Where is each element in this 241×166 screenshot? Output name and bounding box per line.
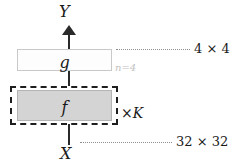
repeat-variable: K xyxy=(133,105,143,121)
size-annotation-output: 4 × 4 xyxy=(194,42,230,55)
size-annotation-input: 32 × 32 xyxy=(176,135,228,148)
block-f[interactable]: f xyxy=(17,90,112,121)
leader-line-top xyxy=(116,49,190,50)
block-f-label: f xyxy=(18,98,111,117)
multiply-sign: × xyxy=(121,105,133,121)
block-g-n-annotation: n=4 xyxy=(115,62,136,73)
block-g-label: g xyxy=(18,53,111,72)
axis-input-label: X xyxy=(60,146,71,162)
axis-line-top xyxy=(68,33,70,49)
repeat-count-label: ×K xyxy=(121,105,143,121)
diagram-canvas: Y g n=4 f ×K 4 × 4 32 × 32 X xyxy=(0,0,241,166)
leader-line-bottom xyxy=(80,142,172,143)
axis-output-label: Y xyxy=(59,4,70,20)
axis-line-bottom xyxy=(68,124,70,145)
axis-line-middle xyxy=(68,70,70,86)
block-g[interactable]: g xyxy=(17,49,112,71)
